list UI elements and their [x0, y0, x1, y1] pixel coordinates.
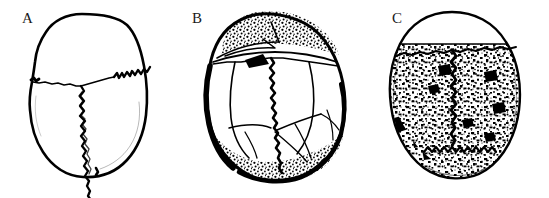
sagittal-suture-b: [270, 58, 282, 173]
skull-figure: A: [0, 0, 549, 198]
skull-drawing-b: [183, 0, 366, 198]
lower-crack-far-right2-b: [327, 110, 333, 140]
skull-panel-c: C: [366, 0, 549, 198]
lower-crack-left-b: [229, 125, 271, 128]
coronal-suture-b: [213, 58, 338, 66]
left-parietal-crack-b: [230, 62, 249, 158]
inner-contour-a: [100, 102, 140, 169]
right-parietal-crack-b: [297, 62, 314, 154]
lower-crack-far-right-b: [321, 114, 339, 130]
coronal-suture-mid-a: [81, 77, 114, 86]
skull-panel-a: A: [0, 0, 183, 198]
sagittal-suture-texture-a: [79, 92, 91, 174]
skull-drawing-c: [366, 0, 549, 198]
lower-crack-left2-b: [245, 132, 257, 158]
inner-contour-left-a: [35, 96, 41, 136]
skull-drawing-a: [0, 0, 183, 198]
porosity-texture-c: [386, 44, 531, 184]
coronal-suture-terminus-a: [31, 78, 39, 81]
lambda-terminus-a: [96, 168, 98, 175]
cranium-outline-a: [30, 14, 147, 177]
coronal-suture-left-a: [33, 82, 81, 86]
skull-panel-b: B: [183, 0, 366, 198]
lower-crack-right-b: [277, 114, 321, 130]
